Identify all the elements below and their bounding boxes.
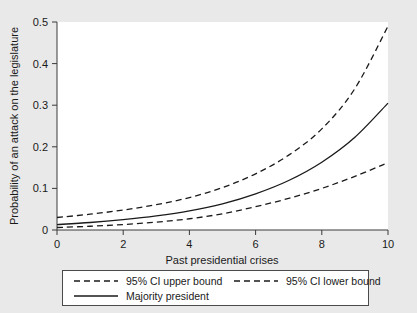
y-tick-label-2: 0.2 xyxy=(33,141,48,153)
y-axis-title: Probability of an attack on the legislat… xyxy=(8,27,20,225)
y-tick-label-0: 0 xyxy=(42,224,48,236)
plot-area-background xyxy=(57,22,388,230)
y-tick-label-1: 0.1 xyxy=(33,182,48,194)
legend-label-ci-lower-bound: 95% CI lower bound xyxy=(286,275,381,287)
x-tick-label-4: 8 xyxy=(319,238,325,250)
y-tick-label-4: 0.4 xyxy=(33,58,48,70)
y-tick-label-3: 0.3 xyxy=(33,99,48,111)
x-tick-label-5: 10 xyxy=(382,238,394,250)
x-tick-label-0: 0 xyxy=(54,238,60,250)
probability-of-attack-line-chart: 0 0.1 0.2 0.3 0.4 0.5 0 2 4 6 8 xyxy=(0,0,417,313)
x-tick-label-3: 6 xyxy=(253,238,259,250)
x-axis-title: Past presidential crises xyxy=(165,254,279,266)
x-tick-label-2: 4 xyxy=(186,238,192,250)
legend-label-ci-upper-bound: 95% CI upper bound xyxy=(126,275,222,287)
chart-legend: 95% CI upper bound 95% CI lower bound Ma… xyxy=(63,271,381,306)
chart-figure: 0 0.1 0.2 0.3 0.4 0.5 0 2 4 6 8 xyxy=(0,0,417,313)
x-tick-label-1: 2 xyxy=(120,238,126,250)
y-tick-label-5: 0.5 xyxy=(33,16,48,28)
legend-label-majority-president: Majority president xyxy=(126,290,209,302)
